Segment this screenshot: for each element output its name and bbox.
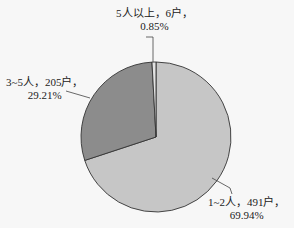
data-label-3to5-line2: 29.21% [6, 89, 83, 102]
data-label-1to2: 1~2人，491户， 69.94% [208, 196, 285, 222]
pie-slices [81, 62, 231, 212]
data-label-1to2-line2: 69.94% [208, 209, 285, 222]
data-label-5plus: 5人以上，6户， 0.85% [116, 7, 193, 33]
data-label-3to5-line1: 3~5人，205户， [6, 76, 83, 89]
data-label-5plus-line1: 5人以上，6户， [116, 7, 193, 20]
data-label-1to2-line1: 1~2人，491户， [208, 196, 285, 209]
data-label-3to5: 3~5人，205户， 29.21% [6, 76, 83, 102]
leader-line-5plus [146, 37, 153, 62]
data-label-5plus-line2: 0.85% [116, 20, 193, 33]
pie-chart [0, 0, 294, 228]
